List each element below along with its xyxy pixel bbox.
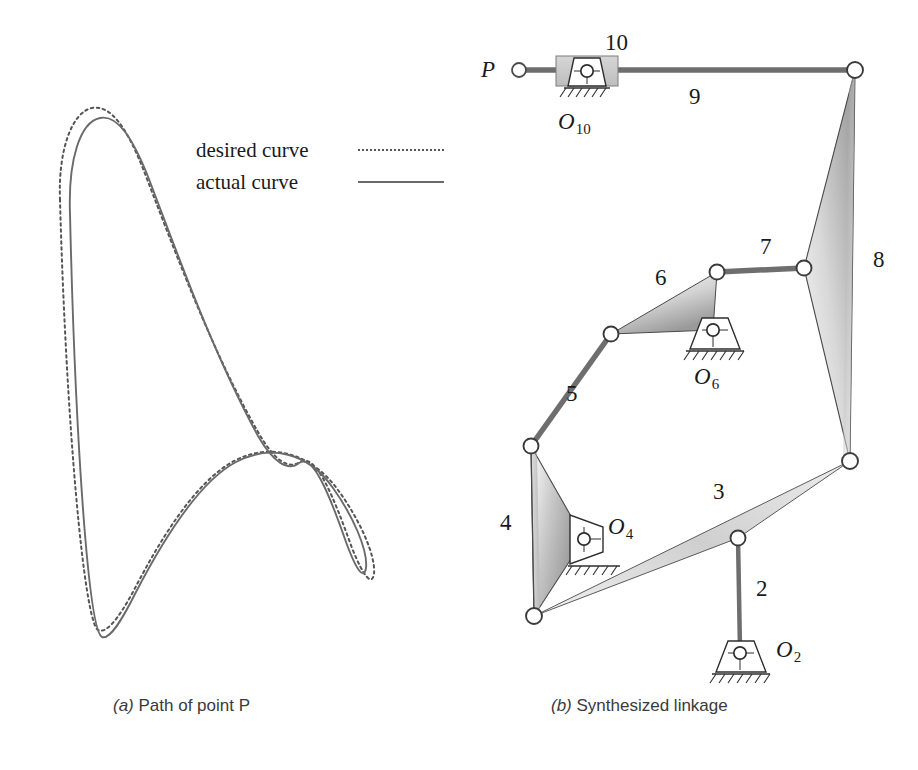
o10-sub: 10 — [576, 121, 591, 137]
legend-row-actual: actual curve — [196, 166, 444, 198]
caption-panel-b: (b) Synthesized linkage — [551, 696, 728, 716]
link-9-label: 9 — [689, 85, 701, 108]
joint-2-3 — [731, 531, 746, 546]
o4-sub: 4 — [626, 526, 634, 542]
o2-pivot-joint — [734, 647, 746, 659]
o6-pivot-joint — [707, 324, 719, 336]
link-7-label: 7 — [760, 235, 772, 258]
joint-3-4 — [526, 608, 542, 624]
o2-ground-pivot — [710, 641, 770, 683]
joint-9-8 — [847, 62, 863, 78]
o4-base: O — [608, 514, 625, 539]
o4-label: O4 — [608, 515, 632, 538]
joint-5-6 — [604, 327, 619, 342]
legend-swatch-actual — [358, 181, 444, 183]
link-7-bar — [717, 268, 804, 272]
legend: desired curve actual curve — [196, 134, 444, 198]
joint-point-p — [512, 63, 526, 77]
link-5-label: 5 — [566, 382, 578, 405]
joint-3-8 — [842, 453, 858, 469]
link-2-label: 2 — [756, 577, 768, 600]
caption-a-text: Path of point P — [139, 696, 251, 715]
link-8-label: 8 — [873, 248, 885, 271]
link-10-label: 10 — [605, 31, 628, 54]
link-2-bar — [738, 538, 740, 650]
o6-sub: 6 — [712, 376, 720, 392]
o10-base: O — [558, 109, 575, 134]
legend-row-desired: desired curve — [196, 134, 444, 166]
legend-label-actual: actual curve — [196, 170, 348, 195]
link-6-label: 6 — [655, 266, 667, 289]
caption-a-prefix: (a) — [113, 696, 134, 715]
caption-panel-a: (a) Path of point P — [113, 696, 250, 716]
caption-b-text: Synthesized linkage — [577, 696, 728, 715]
o10-ground-hatch — [560, 88, 606, 97]
legend-swatch-desired — [358, 149, 444, 151]
o2-base: O — [776, 637, 793, 662]
figure-root: desired curve actual curve P 10 9 8 7 6 … — [0, 0, 918, 770]
o10-pivot-joint — [581, 65, 593, 77]
o4-pivot-joint — [578, 533, 590, 545]
o6-ground-hatch — [684, 351, 744, 360]
point-p-label: P — [481, 58, 495, 81]
panel-b-linkage — [512, 56, 863, 683]
o6-label: O6 — [694, 365, 718, 388]
joint-7-8 — [797, 261, 812, 276]
caption-b-prefix: (b) — [551, 696, 572, 715]
o4-ground-hatch — [566, 566, 617, 575]
legend-label-desired: desired curve — [196, 138, 348, 163]
link-3-label: 3 — [713, 480, 725, 503]
o2-label: O2 — [776, 638, 800, 661]
o2-sub: 2 — [794, 649, 802, 665]
o2-ground-hatch — [710, 674, 770, 683]
o6-base: O — [694, 364, 711, 389]
joint-6-7 — [710, 265, 725, 280]
o10-label: O10 — [558, 110, 590, 133]
link-4-label: 4 — [500, 511, 512, 534]
link-10-slider — [556, 56, 618, 97]
joint-4-5 — [524, 439, 539, 454]
